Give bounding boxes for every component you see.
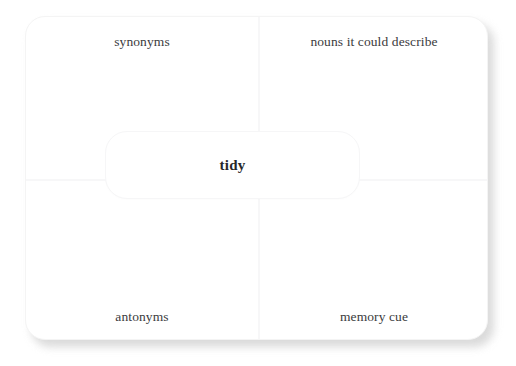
worksheet-canvas: synonyms nouns it could describe antonym… xyxy=(0,0,516,366)
quadrant-antonyms[interactable]: antonyms xyxy=(26,179,258,340)
quadrant-label-synonyms: synonyms xyxy=(114,34,170,50)
quadrant-label-nouns-it-could-describe: nouns it could describe xyxy=(310,34,437,50)
quadrant-memory-cue[interactable]: memory cue xyxy=(258,179,488,340)
center-term-text: tidy xyxy=(220,157,246,174)
center-term-box[interactable]: tidy xyxy=(105,131,360,199)
quadrant-label-memory-cue: memory cue xyxy=(340,309,408,325)
quadrant-label-antonyms: antonyms xyxy=(115,309,168,325)
